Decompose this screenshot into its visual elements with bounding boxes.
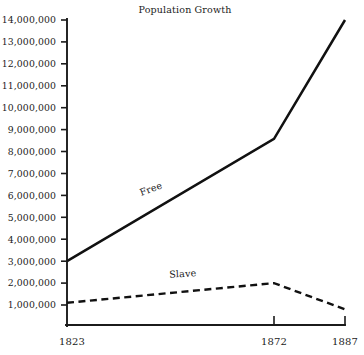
y-axis-label-6000000: 6,000,000 [8,190,56,201]
series-slave-label: Slave [169,267,197,279]
series-free-line [67,20,345,261]
x-axis-label-1872: 1872 [261,336,287,347]
y-axis-label-2000000: 2,000,000 [8,277,56,288]
series-free-label: Free [138,179,164,197]
chart-canvas: Population Growth 14,000,000 [0,0,364,355]
y-axis-label-9000000: 9,000,000 [8,124,56,135]
series-free-group: Free [67,20,345,261]
y-axis-label-11000000: 11,000,000 [2,80,56,91]
y-axis-label-1000000: 1,000,000 [8,299,56,310]
series-slave-line [67,283,345,309]
y-tick-labels: 14,000,000 13,000,000 12,000,000 11,000,… [2,14,56,310]
population-growth-chart: Population Growth 14,000,000 [0,0,364,355]
y-axis-label-13000000: 13,000,000 [2,36,56,47]
x-axis-label-1823: 1823 [59,336,85,347]
y-axis-label-12000000: 12,000,000 [2,58,56,69]
chart-title: Population Growth [139,4,232,15]
series-slave-group: Slave [67,267,345,309]
y-axis-label-4000000: 4,000,000 [8,234,56,245]
y-axis-group: 14,000,000 13,000,000 12,000,000 11,000,… [2,14,67,326]
x-axis-group: 1823 1872 1887 [59,316,358,347]
y-axis-label-10000000: 10,000,000 [2,102,56,113]
y-axis-label-5000000: 5,000,000 [8,212,56,223]
y-axis-label-8000000: 8,000,000 [8,146,56,157]
y-axis-label-14000000: 14,000,000 [2,14,56,25]
y-axis-label-7000000: 7,000,000 [8,168,56,179]
y-axis-label-3000000: 3,000,000 [8,256,56,267]
x-axis-label-1887: 1887 [332,336,358,347]
